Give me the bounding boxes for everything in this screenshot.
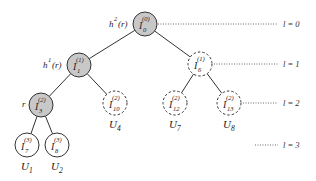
- tree-node-n3: I(2)3r: [22, 93, 53, 117]
- user-index: 4: [117, 124, 121, 133]
- tree-edge: [181, 74, 193, 93]
- tree-node-n1: I(1)1h1(r): [43, 53, 91, 77]
- tree-edge: [87, 74, 106, 95]
- tree-node-n12: I(2)12U7: [163, 91, 187, 133]
- node-superscript: (2): [38, 96, 46, 104]
- node-subscript: 10: [113, 105, 120, 112]
- tree-node-n0: I(0)0h2(r): [109, 12, 157, 36]
- root-key-label: r: [22, 99, 26, 109]
- node-superscript: (0): [142, 15, 150, 23]
- tree-node-n7: I(3)7U1: [15, 133, 39, 175]
- tree-node-n13: I(2)13U8: [217, 91, 241, 133]
- tree-edge: [49, 74, 70, 97]
- level-guide-0: l = 0: [158, 19, 300, 29]
- hash-label-arg: (r): [118, 19, 128, 29]
- tree-node-n6: I(1)6: [188, 52, 212, 76]
- node-superscript: (2): [172, 94, 180, 102]
- user-index: 8: [231, 124, 235, 133]
- tree-edge: [45, 116, 52, 134]
- user-index: 1: [29, 166, 33, 175]
- node-superscript: (2): [226, 94, 234, 102]
- level-label: l = 0: [283, 19, 300, 29]
- hash-label-arg: (r): [52, 60, 62, 70]
- tree-node-n10: I(2)10U4: [103, 91, 127, 133]
- node-subscript: 1: [77, 67, 80, 74]
- level-label: l = 2: [283, 98, 300, 108]
- tree-node-n8: I(3)8U2: [45, 133, 69, 175]
- tree-edge: [207, 74, 222, 94]
- user-index: 2: [59, 166, 63, 175]
- tree-edge: [31, 116, 37, 133]
- node-subscript: 13: [227, 105, 234, 112]
- node-superscript: (3): [54, 136, 62, 144]
- level-label: l = 3: [283, 140, 300, 150]
- node-superscript: (1): [76, 56, 84, 64]
- level-label: l = 1: [283, 59, 300, 69]
- tree-edges: [31, 30, 222, 134]
- node-superscript: (2): [112, 94, 120, 102]
- node-subscript: 12: [173, 105, 180, 112]
- level-guide-1: l = 1: [214, 59, 300, 69]
- tree-nodes: I(0)0h2(r)I(1)1h1(r)I(1)6I(2)3rI(2)10U4I…: [15, 12, 241, 175]
- user-index: 7: [177, 124, 181, 133]
- tree-diagram: l = 0l = 1l = 2l = 3 I(0)0h2(r)I(1)1h1(r…: [0, 0, 316, 181]
- tree-edge: [89, 30, 135, 58]
- node-superscript: (1): [197, 55, 205, 63]
- hash-label-power: 1: [48, 56, 51, 63]
- level-guide-2: l = 2: [243, 98, 300, 108]
- level-guide-3: l = 3: [255, 140, 300, 150]
- node-superscript: (3): [24, 136, 32, 144]
- tree-edge: [155, 31, 191, 57]
